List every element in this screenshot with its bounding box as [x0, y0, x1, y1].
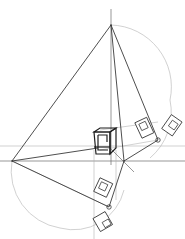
plan-square-bottom-upper — [94, 178, 113, 198]
apex-to-left-vp — [12, 25, 111, 161]
left-vp-to-cube — [12, 148, 98, 161]
center-vanishing-point — [123, 160, 125, 162]
left-vanishing-point — [11, 160, 13, 162]
plan-square-right-outer — [162, 115, 182, 136]
perspective-diagram — [0, 0, 185, 239]
plan-square-bottom-lower — [93, 212, 113, 232]
apex-to-center-vp — [111, 25, 124, 161]
cube — [94, 128, 116, 154]
left-vp-to-bottom-station — [12, 161, 109, 207]
right-measuring-arc — [111, 25, 171, 158]
apex-point — [110, 24, 112, 26]
plan-square-right-inner — [135, 117, 154, 138]
